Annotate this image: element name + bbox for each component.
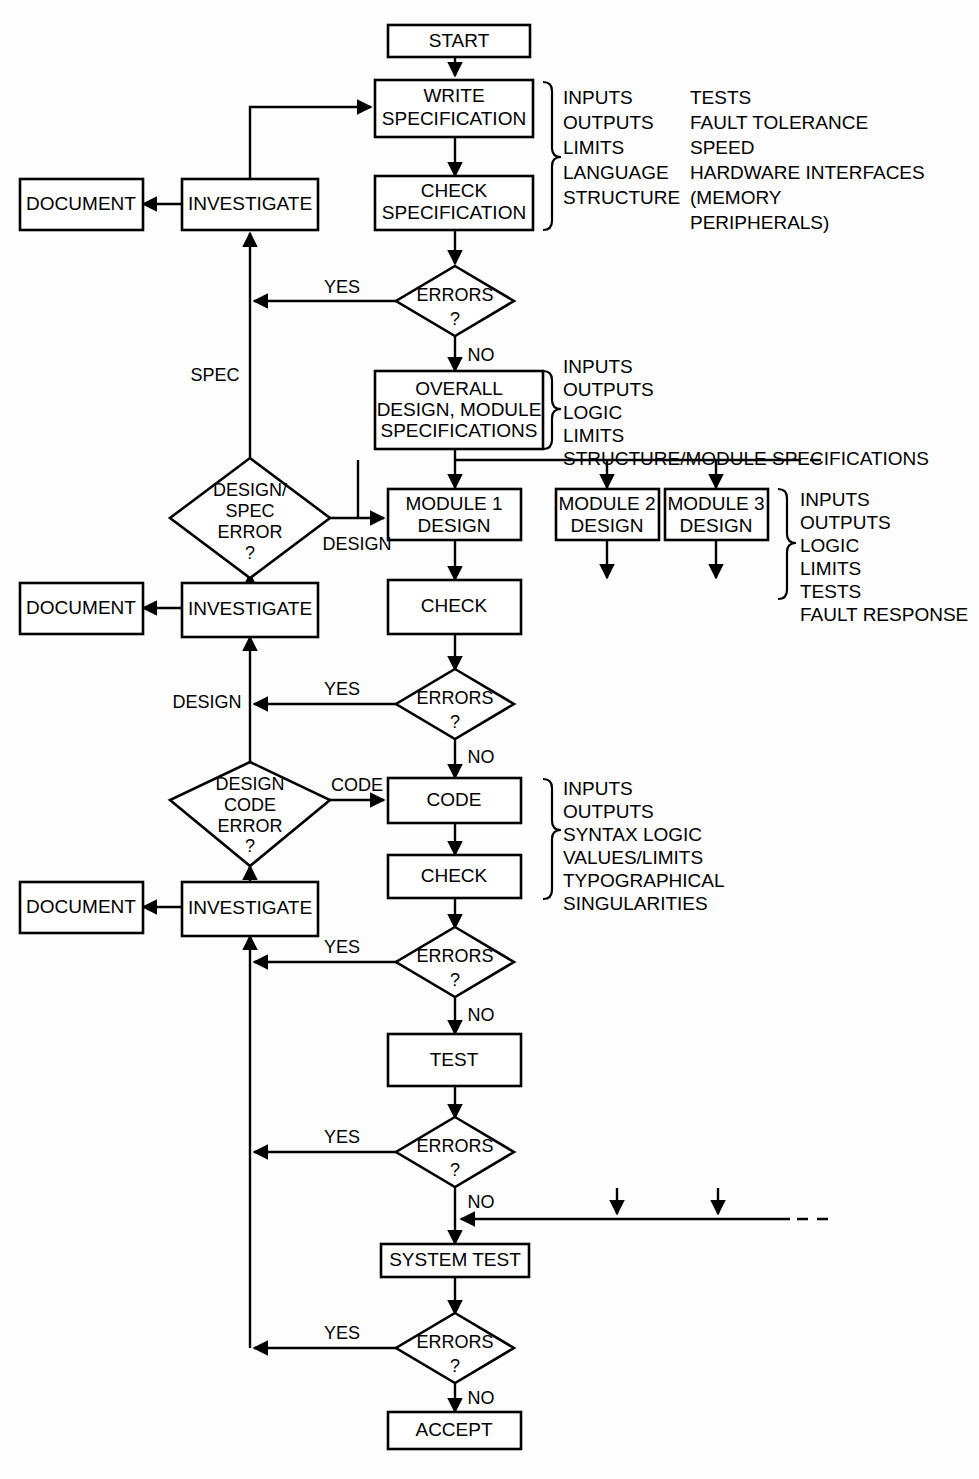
node-investigate-3-label: INVESTIGATE (188, 897, 312, 918)
decision-design-code-error-line2: CODE (224, 795, 276, 815)
annotation-overall-design: INPUTS OUTPUTS LOGIC LIMITS STRUCTURE/MO… (563, 356, 929, 469)
annotation-spec-col2-item-3: HARDWARE INTERFACES (690, 162, 925, 183)
node-code-label: CODE (427, 789, 482, 810)
annotation-overall-item-0: INPUTS (563, 356, 633, 377)
annotation-spec-col2-item-0: TESTS (690, 87, 751, 108)
annotation-spec-col1-item-4: STRUCTURE (563, 187, 680, 208)
node-start[interactable]: START (388, 25, 530, 57)
brace-specification (543, 82, 561, 230)
node-code[interactable]: CODE (388, 778, 521, 823)
node-investigate-3[interactable]: INVESTIGATE (182, 882, 318, 936)
node-check-specification-line1: CHECK (421, 180, 488, 201)
edge-label-yes-test: YES (324, 1127, 360, 1147)
node-module-2-line1: MODULE 2 (558, 493, 655, 514)
node-document-3[interactable]: DOCUMENT (20, 882, 143, 933)
decision-errors-code-line1: ERRORS (416, 946, 493, 966)
node-check-specification-line2: SPECIFICATION (382, 202, 526, 223)
decision-errors-specification-line2: ? (450, 309, 460, 329)
flowchart-svg: START WRITE SPECIFICATION CHECK SPECIFIC… (0, 0, 979, 1479)
node-test-label: TEST (430, 1049, 479, 1070)
node-module-1-line1: MODULE 1 (405, 493, 502, 514)
decision-errors-code-line2: ? (450, 970, 460, 990)
decision-errors-module[interactable]: ERRORS ? (396, 669, 514, 739)
annotation-module-list: INPUTS OUTPUTS LOGIC LIMITS TESTS FAULT … (800, 489, 968, 625)
node-module-2-design[interactable]: MODULE 2 DESIGN (556, 489, 659, 540)
brace-module-list (778, 489, 796, 599)
annotation-module-item-4: TESTS (800, 581, 861, 602)
node-overall-design[interactable]: OVERALL DESIGN, MODULE SPECIFICATIONS (375, 371, 543, 449)
annotation-module-item-3: LIMITS (800, 558, 861, 579)
decision-errors-test[interactable]: ERRORS ? (396, 1117, 514, 1187)
node-module-1-design[interactable]: MODULE 1 DESIGN (388, 489, 521, 540)
node-module-3-line1: MODULE 3 (667, 493, 764, 514)
node-investigate-2[interactable]: INVESTIGATE (182, 583, 318, 637)
annotation-spec-col1-item-3: LANGUAGE (563, 162, 669, 183)
annotation-spec-col1-item-2: LIMITS (563, 137, 624, 158)
decision-errors-code[interactable]: ERRORS ? (396, 927, 514, 997)
annotation-spec-col2-item-2: SPEED (690, 137, 754, 158)
annotation-spec-col2-item-1: FAULT TOLERANCE (690, 112, 868, 133)
edge-label-design-to-investigate: DESIGN (172, 692, 241, 712)
annotation-code-item-5: SINGULARITIES (563, 893, 708, 914)
annotation-code-item-2: SYNTAX LOGIC (563, 824, 702, 845)
annotation-overall-item-1: OUTPUTS (563, 379, 654, 400)
node-overall-design-line1: OVERALL (415, 378, 503, 399)
brace-code-list (543, 779, 561, 899)
decision-design-spec-error-line3: ERROR (217, 522, 282, 542)
node-write-specification-line2: SPECIFICATION (382, 108, 526, 129)
edge-label-no-systest: NO (468, 1388, 495, 1408)
decision-design-code-error-line1: DESIGN (215, 774, 284, 794)
decision-design-code-error-line4: ? (245, 836, 255, 856)
annotation-module-item-2: LOGIC (800, 535, 859, 556)
decision-errors-specification[interactable]: ERRORS ? (396, 266, 514, 336)
brace-overall-design (543, 371, 561, 449)
node-investigate-1[interactable]: INVESTIGATE (182, 179, 318, 230)
decision-errors-module-line1: ERRORS (416, 688, 493, 708)
edge-label-design-branch: DESIGN (322, 534, 391, 554)
decision-errors-test-line1: ERRORS (416, 1136, 493, 1156)
annotation-spec-col1-item-0: INPUTS (563, 87, 633, 108)
decision-design-spec-error-line2: SPEC (225, 501, 274, 521)
node-investigate-1-label: INVESTIGATE (188, 193, 312, 214)
node-check-code[interactable]: CHECK (388, 855, 521, 898)
edge-label-yes-systest: YES (324, 1323, 360, 1343)
annotation-code-item-0: INPUTS (563, 778, 633, 799)
node-check-code-label: CHECK (421, 865, 488, 886)
decision-design-code-error[interactable]: DESIGN CODE ERROR ? (170, 762, 330, 866)
annotation-spec-col2-item-4: (MEMORY (690, 187, 782, 208)
decision-design-spec-error-line1: DESIGN/ (213, 480, 287, 500)
decision-design-code-error-line3: ERROR (217, 816, 282, 836)
annotation-code-list: INPUTS OUTPUTS SYNTAX LOGIC VALUES/LIMIT… (563, 778, 725, 914)
node-document-2[interactable]: DOCUMENT (20, 583, 143, 634)
node-test[interactable]: TEST (388, 1034, 521, 1086)
node-document-1[interactable]: DOCUMENT (20, 179, 143, 230)
annotation-code-item-4: TYPOGRAPHICAL (563, 870, 725, 891)
node-check-module[interactable]: CHECK (388, 580, 521, 634)
edge-label-code-branch: CODE (331, 775, 383, 795)
node-accept-label: ACCEPT (415, 1419, 492, 1440)
node-document-3-label: DOCUMENT (26, 896, 136, 917)
decision-errors-test-line2: ? (450, 1160, 460, 1180)
annotation-overall-item-3: LIMITS (563, 425, 624, 446)
annotation-overall-item-4: STRUCTURE/MODULE SPECIFICATIONS (563, 448, 929, 469)
node-check-module-label: CHECK (421, 595, 488, 616)
annotation-overall-item-2: LOGIC (563, 402, 622, 423)
decision-errors-system-test[interactable]: ERRORS ? (396, 1313, 514, 1383)
node-system-test-label: SYSTEM TEST (389, 1249, 521, 1270)
decision-design-spec-error[interactable]: DESIGN/ SPEC ERROR ? (170, 458, 330, 578)
decision-errors-system-test-line1: ERRORS (416, 1332, 493, 1352)
edge-label-no-test: NO (468, 1192, 495, 1212)
node-accept[interactable]: ACCEPT (388, 1412, 521, 1449)
decision-errors-system-test-line2: ? (450, 1356, 460, 1376)
node-module-3-design[interactable]: MODULE 3 DESIGN (665, 489, 768, 540)
node-module-1-line2: DESIGN (418, 515, 491, 536)
annotation-specification-col2: TESTS FAULT TOLERANCE SPEED HARDWARE INT… (690, 87, 925, 233)
node-write-specification[interactable]: WRITE SPECIFICATION (375, 80, 533, 137)
annotation-code-item-3: VALUES/LIMITS (563, 847, 703, 868)
edge-label-yes-code: YES (324, 937, 360, 957)
annotation-spec-col1-item-1: OUTPUTS (563, 112, 654, 133)
node-check-specification[interactable]: CHECK SPECIFICATION (375, 176, 533, 230)
node-system-test[interactable]: SYSTEM TEST (381, 1244, 529, 1277)
annotation-module-item-5: FAULT RESPONSE (800, 604, 968, 625)
node-start-label: START (429, 30, 490, 51)
